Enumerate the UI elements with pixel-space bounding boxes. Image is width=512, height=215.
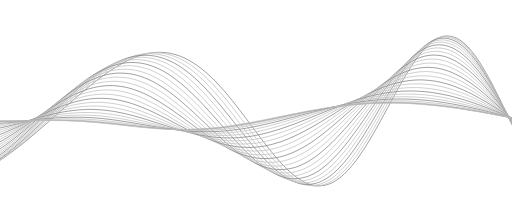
wave-line — [0, 40, 512, 183]
wave-line — [0, 97, 512, 134]
wave-line — [0, 91, 512, 138]
wave-line — [0, 45, 512, 179]
wave-line — [0, 48, 512, 176]
wave-line — [0, 102, 512, 130]
wave-line — [0, 103, 512, 130]
wave-line — [0, 72, 512, 155]
wave-lines-group — [0, 36, 512, 186]
wave-line-art — [0, 0, 512, 215]
